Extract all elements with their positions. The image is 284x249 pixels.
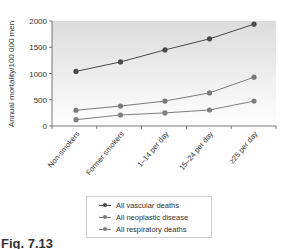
- y-tick-label: 0: [43, 122, 48, 131]
- x-tick-label: 1–14 per day: [135, 129, 170, 169]
- legend-marker-icon: [99, 201, 111, 209]
- data-point: [251, 98, 256, 103]
- y-tick-label: 500: [34, 96, 48, 105]
- data-point: [251, 75, 256, 80]
- legend-label: All vascular deaths: [116, 201, 179, 210]
- data-point: [162, 47, 167, 52]
- x-tick-label: Non-smokers: [46, 129, 82, 169]
- x-tick-label: 15–24 per day: [177, 129, 215, 172]
- data-point: [207, 90, 212, 95]
- legend-label: All neoplastic disease: [116, 213, 188, 222]
- legend-marker-icon: [99, 213, 111, 221]
- x-axis-labels: Non-smokersFormer smokers1–14 per day15–…: [46, 129, 260, 177]
- legend-item: All vascular deaths: [99, 199, 211, 211]
- y-axis-label: Annual mortality/100 000 men: [7, 21, 16, 127]
- figure-caption: Fig. 7.13: [1, 236, 53, 249]
- data-point: [73, 108, 78, 113]
- legend-marker-icon: [99, 225, 111, 233]
- data-point: [207, 36, 212, 41]
- legend: All vascular deathsAll neoplastic diseas…: [86, 196, 212, 238]
- legend-item: All respiratory deaths: [99, 223, 211, 235]
- y-tick-label: 2000: [29, 17, 47, 26]
- data-point: [118, 103, 123, 108]
- legend-label: All respiratory deaths: [116, 225, 186, 234]
- data-point: [73, 69, 78, 74]
- y-tick-label: 1000: [29, 70, 47, 79]
- x-tick-label: Former smokers: [84, 129, 126, 177]
- data-point: [118, 112, 123, 117]
- legend-item: All neoplastic disease: [99, 211, 211, 223]
- data-point: [207, 107, 212, 112]
- x-tick-label: ≥25 per day: [227, 129, 259, 165]
- data-point: [251, 22, 256, 27]
- data-point: [73, 117, 78, 122]
- data-point: [118, 59, 123, 64]
- plot-area: [52, 21, 276, 126]
- data-point: [162, 110, 167, 115]
- y-tick-label: 1500: [29, 43, 47, 52]
- data-point: [162, 98, 167, 103]
